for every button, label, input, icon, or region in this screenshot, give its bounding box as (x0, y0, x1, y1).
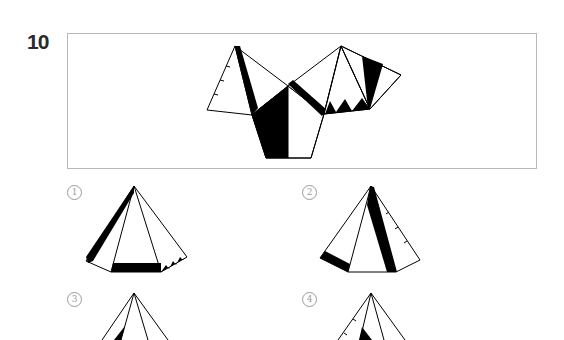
option-4-tick-marks-icon (344, 319, 356, 335)
option-1-black-band (111, 263, 161, 272)
pyramid-net (207, 46, 401, 158)
option-4-pyramid[interactable] (338, 293, 405, 340)
figures-canvas (0, 0, 564, 340)
option-1-label[interactable]: 1 (67, 185, 82, 200)
option-4-black-wedge (359, 327, 372, 340)
option-1-pyramid[interactable] (86, 186, 187, 272)
option-4-label[interactable]: 4 (302, 292, 317, 307)
option-3-pyramid[interactable] (102, 293, 168, 340)
option-3-label[interactable]: 3 (67, 292, 82, 307)
option-2-pyramid[interactable] (320, 186, 420, 272)
option-2-label[interactable]: 2 (302, 185, 317, 200)
